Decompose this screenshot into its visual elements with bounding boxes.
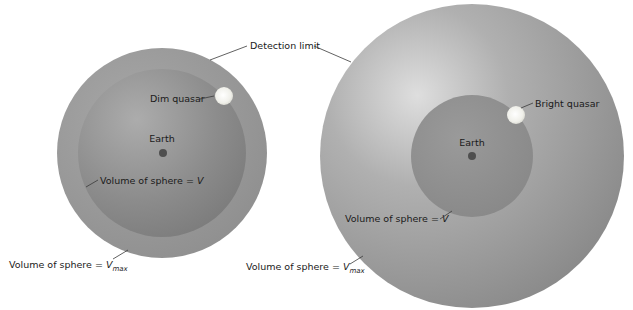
detection-limit-label: Detection limit: [250, 40, 320, 51]
quasar-detection-diagram: Earth Dim quasar Volume of sphere = V Vo…: [0, 0, 633, 310]
left-panel-dim-quasar: Earth Dim quasar Volume of sphere = V Vo…: [9, 48, 267, 273]
right-earth-label: Earth: [459, 137, 484, 148]
right-earth-dot: [468, 152, 476, 160]
bright-quasar-label: Bright quasar: [535, 98, 600, 109]
detection-limit-callout: Detection limit: [210, 40, 351, 62]
left-outer-volume-leader: [113, 250, 128, 259]
dim-quasar-dot: [215, 87, 233, 105]
right-inner-volume-label: Volume of sphere = V: [345, 213, 450, 224]
left-earth-dot: [159, 149, 167, 157]
dim-quasar-label: Dim quasar: [150, 93, 205, 104]
bright-quasar-dot: [507, 106, 525, 124]
left-inner-volume-label: Volume of sphere = V: [100, 175, 205, 186]
right-outer-volume-leader: [350, 256, 363, 264]
detection-limit-leader-right: [314, 46, 351, 62]
right-outer-volume-label: Volume of sphere = Vmax: [246, 261, 366, 275]
detection-limit-leader-left: [210, 46, 247, 60]
left-earth-label: Earth: [149, 133, 174, 144]
left-outer-volume-label: Volume of sphere = Vmax: [9, 259, 129, 273]
